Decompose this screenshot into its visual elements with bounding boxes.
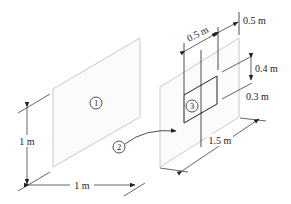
plate1-height-dimension: 1 m xyxy=(14,94,50,191)
plate2-width-label: 1.5 m xyxy=(209,135,232,146)
window-offset-bottom-label: 0.3 m xyxy=(246,91,269,102)
window-width-label: 0.5 m xyxy=(185,24,210,44)
surface-1-label: 1 xyxy=(94,98,98,108)
window-offset-bottom-dimension: 0.3 m xyxy=(246,91,269,102)
plate1-width-dimension: 1 m xyxy=(29,179,145,196)
diagram-canvas: 1 1 m 1 m 2 3 xyxy=(0,0,291,204)
surface-3-marker: 3 xyxy=(186,100,198,112)
window-height-label: 0.4 m xyxy=(255,63,278,74)
surface-2-label: 2 xyxy=(117,142,121,152)
window-offset-right-label: 0.5 m xyxy=(243,15,266,26)
plate1-width-label: 1 m xyxy=(74,180,90,191)
window-offset-right-dimension: 0.5 m xyxy=(219,15,266,32)
plate1-height-label: 1 m xyxy=(19,136,35,147)
surface-3-label: 3 xyxy=(190,101,194,111)
window-width-dimension: 0.5 m xyxy=(185,24,217,51)
